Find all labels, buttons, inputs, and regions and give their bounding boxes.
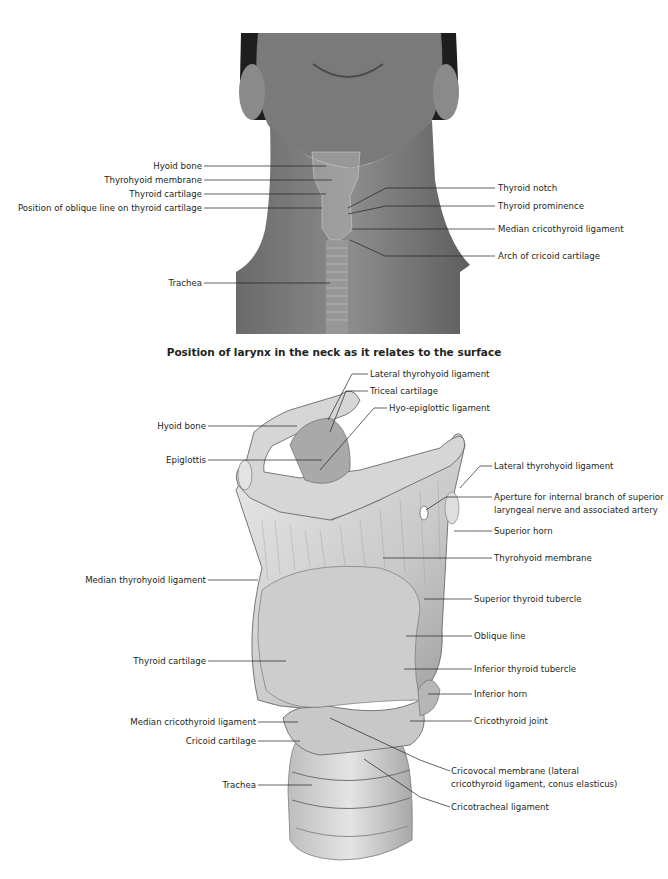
anatomy-artwork [0,0,668,879]
label-cricovocal-membrane-line1: Cricovocal membrane (lateral [451,766,579,777]
label-thyrohyoid-membrane: Thyrohyoid membrane [494,553,592,564]
label-hyoid-bone-top: Hyoid bone [153,161,202,172]
label-cricotracheal-ligament: Cricotracheal ligament [451,802,549,813]
label-thyroid-notch: Thyroid notch [498,183,557,194]
label-lateral-thyrohyoid-ligament: Lateral thyrohyoid ligament [494,461,613,472]
label-aperture-line2: laryngeal nerve and associated artery [494,505,658,516]
label-cricothyroid-joint: Cricothyroid joint [474,716,548,727]
label-oblique-line-position: Position of oblique line on thyroid cart… [18,203,202,214]
label-superior-horn: Superior horn [494,526,553,537]
label-aperture-line1: Aperture for internal branch of superior [494,492,664,503]
label-inferior-thyroid-tubercle: Inferior thyroid tubercle [474,664,576,675]
larynx-illustration [236,391,465,860]
label-epiglottis: Epiglottis [166,455,206,466]
label-thyroid-cartilage: Thyroid cartilage [133,656,206,667]
label-superior-thyroid-tubercle: Superior thyroid tubercle [474,594,581,605]
figure-caption: Position of larynx in the neck as it rel… [0,346,668,358]
label-trachea: Trachea [222,780,256,791]
label-median-cricothyroid-ligament: Median cricothyroid ligament [130,717,256,728]
label-inferior-horn: Inferior horn [474,689,527,700]
label-lateral-thyrohyoid-ligament-top: Lateral thyrohyoid ligament [370,369,489,380]
label-arch-cricoid: Arch of cricoid cartilage [498,251,600,262]
label-hyoid-bone: Hyoid bone [157,421,206,432]
label-oblique-line: Oblique line [474,631,525,642]
label-trachea-top: Trachea [168,278,202,289]
label-cricoid-cartilage: Cricoid cartilage [186,736,256,747]
label-thyroid-cartilage-top: Thyroid cartilage [129,189,202,200]
label-triticeal-cartilage: Triceal cartilage [370,386,438,397]
label-thyroid-prominence: Thyroid prominence [498,201,584,212]
label-hyo-epiglottic-ligament: Hyo-epiglottic ligament [389,403,490,414]
neck-photo [236,33,470,334]
label-thyrohyoid-membrane-top: Thyrohyoid membrane [104,175,202,186]
label-median-cricothyroid-top: Median cricothyroid ligament [498,224,624,235]
label-median-thyrohyoid-ligament: Median thyrohyoid ligament [85,575,206,586]
label-cricovocal-membrane-line2: cricothyroid ligament, conus elasticus) [451,779,617,790]
